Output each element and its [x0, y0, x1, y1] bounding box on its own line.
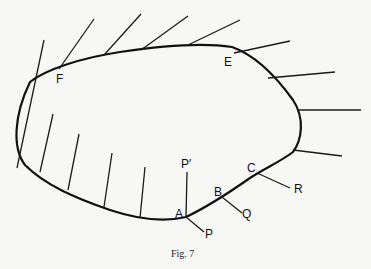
line-AP-prime	[186, 172, 187, 217]
normal-line	[188, 20, 240, 45]
line-BQ	[222, 197, 242, 213]
label-P: P	[205, 227, 213, 241]
normal-line	[140, 167, 145, 218]
label-B: B	[214, 185, 222, 199]
line-CR	[257, 173, 290, 188]
label-Q: Q	[242, 207, 251, 221]
normal-line	[68, 134, 79, 190]
normal-line	[293, 150, 342, 156]
normal-line	[40, 114, 53, 172]
normal-line	[234, 41, 290, 53]
normal-line	[268, 72, 335, 78]
diagram: F E P′ A P B Q C R Fig. 7	[0, 0, 371, 269]
label-C: C	[247, 161, 256, 175]
label-F: F	[56, 72, 63, 86]
normal-line	[104, 153, 112, 207]
label-E: E	[224, 55, 232, 69]
closed-curve	[16, 45, 300, 220]
line-AP	[186, 217, 204, 232]
label-P-prime: P′	[181, 157, 192, 171]
figure-caption: Fig. 7	[171, 248, 194, 259]
label-A: A	[175, 207, 183, 221]
label-R: R	[294, 182, 303, 196]
